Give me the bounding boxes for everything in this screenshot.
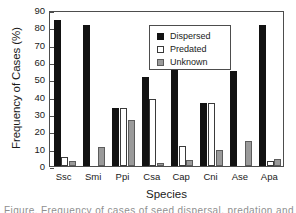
y-tick-mark (50, 116, 54, 117)
y-axis-tick-labels: 9080706050403020100 (21, 0, 45, 213)
legend-label: Predated (170, 45, 207, 54)
y-tick-label: 0 (23, 162, 45, 172)
y-tick-mark (50, 64, 54, 65)
bar-group (109, 12, 138, 166)
y-tick-mark (50, 99, 54, 100)
bar-csa-unknown (157, 163, 164, 166)
y-tick-label: 90 (23, 6, 45, 16)
x-tick-label-ppi: Ppi (108, 172, 137, 182)
y-tick-mark (50, 81, 54, 82)
bar-ppi-dispersed (112, 108, 119, 166)
bar-smi-dispersed (83, 25, 90, 166)
legend-swatch-unknown-icon (157, 59, 164, 66)
x-tick-label-cni: Cni (196, 172, 225, 182)
plot-area: DispersedPredatedUnknown (49, 11, 284, 167)
legend-swatch-dispersed-icon (157, 33, 164, 40)
y-tick-mark (50, 168, 54, 169)
legend-item-dispersed: Dispersed (157, 30, 230, 42)
bar-group (50, 12, 79, 166)
figure-caption-partial: Figure. Frequency of cases of seed dispe… (4, 205, 296, 213)
x-tick-label-apa: Apa (255, 172, 284, 182)
y-tick-label: 10 (23, 145, 45, 155)
x-tick-label-smi: Smi (78, 172, 107, 182)
bar-ssc-dispersed (54, 20, 61, 166)
x-tick-label-ase: Ase (225, 172, 254, 182)
y-tick-label: 20 (23, 127, 45, 137)
legend-label: Unknown (170, 58, 208, 67)
y-tick-mark (50, 29, 54, 30)
y-tick-mark (50, 151, 54, 152)
bar-csa-dispersed (142, 77, 149, 166)
bar-cap-predated (179, 146, 186, 166)
bar-apa-dispersed (259, 25, 266, 166)
bar-chart-figure: Frequency of Cases (%) 90807060504030201… (0, 0, 296, 213)
y-tick-mark (50, 133, 54, 134)
bar-csa-predated (149, 99, 156, 166)
x-tick-label-ssc: Ssc (49, 172, 78, 182)
bar-cni-predated (208, 103, 215, 166)
x-axis-title: Species (49, 188, 284, 200)
bar-cni-unknown (216, 150, 223, 166)
y-tick-label: 70 (23, 41, 45, 51)
y-tick-label: 30 (23, 110, 45, 120)
y-tick-label: 50 (23, 75, 45, 85)
bar-cni-dispersed (200, 103, 207, 166)
bar-ase-dispersed (230, 71, 237, 166)
bar-apa-unknown (274, 159, 281, 166)
legend-label: Dispersed (170, 32, 211, 41)
bar-cap-unknown (186, 160, 193, 166)
bar-group (256, 12, 285, 166)
legend-swatch-predated-icon (157, 46, 164, 53)
y-tick-mark (50, 47, 54, 48)
y-tick-label: 80 (23, 23, 45, 33)
bar-ppi-predated (120, 108, 127, 166)
y-tick-label: 60 (23, 58, 45, 68)
y-tick-mark (50, 12, 54, 13)
bar-apa-predated (267, 161, 274, 166)
legend-item-predated: Predated (157, 43, 230, 55)
bar-group (79, 12, 108, 166)
y-tick-label: 40 (23, 93, 45, 103)
x-tick-label-cap: Cap (167, 172, 196, 182)
bar-ssc-predated (61, 157, 68, 166)
bar-smi-unknown (98, 147, 105, 166)
chart-legend: DispersedPredatedUnknown (149, 25, 231, 70)
x-tick-label-csa: Csa (137, 172, 166, 182)
bar-ssc-unknown (69, 161, 76, 166)
bar-ppi-unknown (128, 120, 135, 166)
legend-item-unknown: Unknown (157, 56, 230, 68)
bar-ase-unknown (245, 141, 252, 166)
